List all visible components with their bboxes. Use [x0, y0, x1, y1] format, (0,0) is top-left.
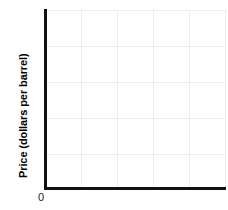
y-axis-label: Price (dollars per barrel): [14, 0, 32, 178]
gridline-horizontal-5: [46, 154, 226, 155]
gridline-horizontal-3: [46, 82, 226, 83]
gridline-horizontal-2: [46, 46, 226, 47]
gridline-vertical-3: [153, 10, 154, 188]
price-graph: Price (dollars per barrel) 0: [0, 0, 228, 210]
x-axis-line: [44, 187, 226, 190]
origin-tick-label: 0: [38, 190, 44, 204]
gridline-horizontal-1: [46, 10, 226, 11]
gridline-vertical-2: [117, 10, 118, 188]
plot-area: [46, 10, 226, 188]
gridline-vertical-4: [189, 10, 190, 188]
gridline-horizontal-4: [46, 118, 226, 119]
y-axis-line: [44, 9, 47, 190]
gridline-vertical-1: [81, 10, 82, 188]
gridline-vertical-5: [225, 10, 226, 188]
